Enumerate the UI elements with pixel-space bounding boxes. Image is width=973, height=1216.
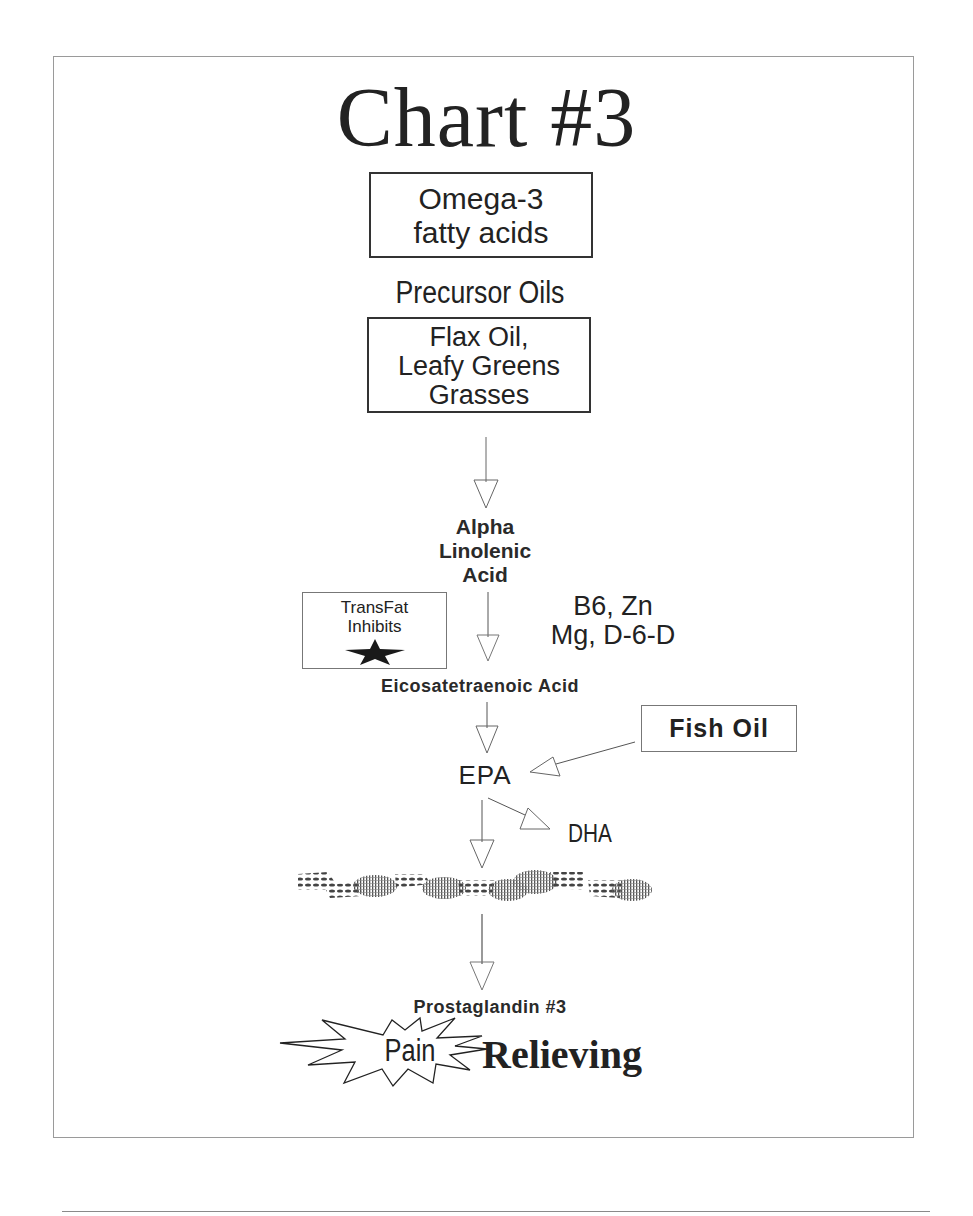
arrow-membrane-to-prostaglandin [470,914,494,990]
arrow-ala-to-eta [477,592,499,661]
relieving-label: Relieving [482,1032,697,1078]
cell-membrane-texture [298,870,652,901]
arrow-epa-to-dha [488,798,550,829]
arrow-epa-to-membrane [470,800,494,868]
arrow-eta-to-epa [476,702,498,753]
pain-label: Pain [373,1033,447,1069]
arrow-fish-oil-to-epa [530,742,635,776]
arrow-oils-to-ala [474,437,498,508]
